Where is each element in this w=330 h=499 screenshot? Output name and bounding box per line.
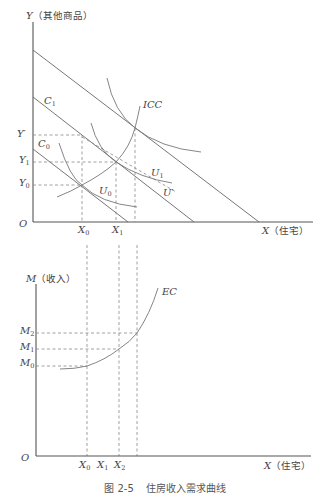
top-y-axis-label: Y（其他商品）	[26, 11, 93, 21]
bottom-y-var: M	[26, 273, 36, 284]
label-ec: EC	[162, 287, 177, 297]
indifference-curve-u0	[59, 143, 137, 207]
tick-m1: M1	[20, 342, 34, 354]
tick-y-prime: Y′	[17, 129, 26, 139]
label-icc: ICC	[143, 100, 162, 110]
tick-m2: M2	[20, 326, 34, 338]
top-origin-label: O	[19, 219, 27, 229]
tick-x1-bottom: X1	[97, 460, 108, 472]
top-y-name: （其他商品）	[33, 10, 93, 21]
tick-x0-bottom: X0	[79, 460, 90, 472]
tick-y1: Y1	[19, 155, 30, 167]
compensated-budget-line	[82, 137, 176, 192]
top-y-var: Y	[26, 10, 33, 21]
bottom-y-name: （收入）	[36, 273, 76, 284]
tick-y0: Y0	[19, 178, 30, 190]
label-u1: U1	[151, 168, 164, 180]
tick-x2-bottom: X2	[114, 460, 125, 472]
top-x-name: （住宅）	[269, 225, 309, 236]
bottom-origin-label: O	[21, 453, 29, 463]
tick-x0-top: X0	[78, 225, 89, 237]
indifference-curve-top	[107, 78, 201, 152]
tick-x1-top: X1	[112, 225, 123, 237]
budget-line-c1	[33, 97, 194, 222]
bottom-x-name: （住宅）	[271, 460, 311, 471]
label-c0: C0	[38, 139, 50, 151]
figure-title: 住房收入需求曲线	[146, 483, 226, 494]
label-c1: C1	[44, 96, 56, 108]
figure-caption: 图 2-5住房收入需求曲线	[0, 480, 330, 495]
label-u0: U0	[99, 186, 112, 198]
engel-curve	[60, 288, 158, 369]
figure-number: 图 2-5	[104, 483, 134, 494]
top-x-axis-label: X（住宅）	[262, 226, 309, 236]
label-u-prime: U′	[163, 188, 174, 198]
bottom-chart	[36, 284, 311, 456]
income-demand-diagram	[0, 0, 330, 499]
bottom-x-axis-label: X（住宅）	[264, 461, 311, 471]
tick-m0: M0	[20, 358, 34, 370]
income-consumption-curve	[57, 106, 140, 197]
bottom-y-axis-label: M（收入）	[26, 274, 76, 284]
